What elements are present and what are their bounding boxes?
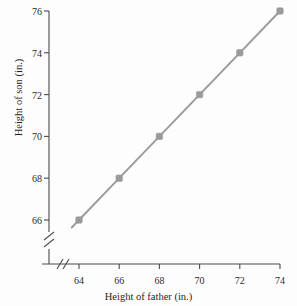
data-point-66-68 xyxy=(116,175,122,181)
xtick-label-74: 74 xyxy=(275,275,285,286)
ytick-label-72: 72 xyxy=(24,89,42,100)
y-axis-break-mark xyxy=(44,232,54,247)
axes-group xyxy=(42,11,280,269)
data-series-group xyxy=(72,8,283,228)
xtick-label-72: 72 xyxy=(235,275,245,286)
xtick-label-66: 66 xyxy=(114,275,124,286)
y-axis-label: Height of son (in.) xyxy=(13,28,24,168)
data-line xyxy=(72,11,280,228)
ytick-label-68: 68 xyxy=(24,173,42,184)
data-point-70-72 xyxy=(196,91,202,97)
figure-container: 76 74 72 70 68 66 64 66 68 70 72 74 Heig… xyxy=(0,0,297,306)
x-axis-label: Height of father (in.) xyxy=(0,291,297,302)
data-point-68-70 xyxy=(156,133,162,139)
ytick-label-66: 66 xyxy=(24,215,42,226)
chart-canvas xyxy=(0,0,297,306)
data-point-74-76 xyxy=(277,8,283,14)
data-point-72-74 xyxy=(237,50,243,56)
ytick-label-70: 70 xyxy=(24,131,42,142)
ytick-label-76: 76 xyxy=(24,6,42,17)
xtick-label-70: 70 xyxy=(195,275,205,286)
xtick-label-68: 68 xyxy=(154,275,164,286)
xtick-label-64: 64 xyxy=(74,275,84,286)
data-point-64-66 xyxy=(76,217,82,223)
ytick-label-74: 74 xyxy=(24,47,42,58)
